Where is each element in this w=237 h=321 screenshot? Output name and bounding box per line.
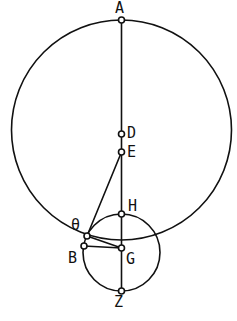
point-label-D: D [127, 126, 136, 141]
point-marker-G [119, 245, 125, 251]
point-marker-theta [84, 233, 90, 239]
point-label-G: G [126, 252, 135, 267]
point-label-E: E [127, 145, 136, 160]
point-marker-E [119, 149, 125, 155]
point-label-B: B [68, 251, 77, 266]
point-label-A: A [115, 1, 124, 16]
point-marker-D [119, 131, 125, 137]
point-label-theta: θ [71, 218, 80, 233]
point-label-Z: Z [114, 295, 123, 310]
geometry-canvas [0, 0, 237, 321]
point-label-H: H [128, 199, 137, 214]
point-marker-H [119, 211, 125, 217]
segment-E-theta [87, 152, 122, 236]
geometry-figure: A D E H θ B G Z [0, 0, 237, 321]
point-marker-B [81, 243, 87, 249]
point-marker-A [119, 17, 125, 23]
